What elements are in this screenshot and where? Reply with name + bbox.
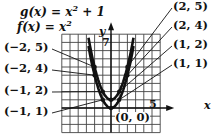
label-2-5: (2, 5) <box>173 1 208 13</box>
label-1-2: (1, 2) <box>173 39 208 51</box>
label-m2-5: (−2, 5) <box>4 42 49 54</box>
y-tick-7: 7 <box>102 37 110 48</box>
g-equation: g(x) = x2 + 1 <box>20 4 105 18</box>
x-tick-5: 5 <box>149 99 157 110</box>
x-axis-label: x <box>204 100 211 111</box>
label-1-1: (1, 1) <box>173 58 208 70</box>
label-m2-4: (−2, 4) <box>4 63 49 75</box>
label-origin: (0, 0) <box>115 112 150 124</box>
label-m1-2: (−1, 2) <box>4 85 49 97</box>
f-equation: f(x) = x2 <box>17 19 72 33</box>
label-2-4: (2, 4) <box>173 20 208 32</box>
label-m1-1: (−1, 1) <box>4 106 49 118</box>
